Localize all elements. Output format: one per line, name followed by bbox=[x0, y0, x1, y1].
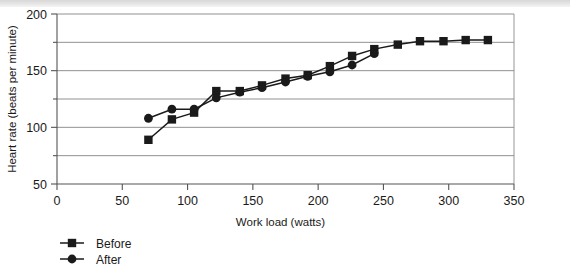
data-point-circle bbox=[281, 78, 290, 87]
data-point-square bbox=[484, 36, 492, 44]
x-tick-label: 300 bbox=[438, 194, 459, 208]
x-axis-tick-labels: 050100150200250300350 bbox=[54, 194, 525, 208]
data-point-square bbox=[144, 136, 152, 144]
x-axis-title: Work load (watts) bbox=[236, 216, 325, 228]
data-point-circle bbox=[235, 88, 244, 97]
y-tick-label: 100 bbox=[26, 121, 47, 135]
legend-label: Before bbox=[96, 237, 132, 251]
x-tick-label: 100 bbox=[177, 194, 198, 208]
data-point-square bbox=[439, 37, 447, 45]
legend-item-after[interactable]: After bbox=[60, 253, 121, 267]
data-point-square bbox=[68, 239, 76, 247]
y-tick-label: 50 bbox=[33, 178, 47, 192]
y-axis-title: Heart rate (beats per minute) bbox=[6, 25, 18, 173]
data-point-square bbox=[416, 37, 424, 45]
data-point-circle bbox=[168, 105, 177, 114]
data-point-circle bbox=[190, 105, 199, 114]
data-point-circle bbox=[68, 255, 77, 264]
data-point-circle bbox=[370, 49, 379, 58]
y-axis-tick-labels: 50100150200 bbox=[26, 8, 47, 192]
data-point-circle bbox=[348, 61, 357, 70]
data-point-circle bbox=[303, 72, 312, 81]
chart-legend: BeforeAfter bbox=[60, 237, 132, 267]
legend-item-before[interactable]: Before bbox=[60, 237, 132, 251]
series-before bbox=[144, 36, 492, 144]
heart-rate-line-chart: 50100150200 050100150200250300350 Heart … bbox=[0, 0, 570, 276]
data-point-circle bbox=[212, 93, 221, 102]
data-point-circle bbox=[325, 67, 334, 76]
data-point-circle bbox=[258, 83, 267, 92]
y-tick-label: 200 bbox=[26, 8, 47, 22]
x-tick-label: 150 bbox=[242, 194, 263, 208]
y-tick-label: 150 bbox=[26, 64, 47, 78]
x-tick-label: 0 bbox=[54, 194, 61, 208]
y-axis-ticks bbox=[51, 14, 57, 184]
data-point-circle bbox=[144, 114, 153, 123]
series-polyline bbox=[148, 40, 487, 140]
x-tick-label: 200 bbox=[308, 194, 329, 208]
x-tick-label: 250 bbox=[373, 194, 394, 208]
data-point-square bbox=[394, 40, 402, 48]
x-tick-label: 350 bbox=[504, 194, 525, 208]
x-axis-ticks bbox=[57, 184, 514, 190]
data-series-group bbox=[144, 36, 492, 144]
data-point-square bbox=[348, 52, 356, 60]
legend-label: After bbox=[96, 253, 121, 267]
x-tick-label: 50 bbox=[115, 194, 129, 208]
chart-figure: 50100150200 050100150200250300350 Heart … bbox=[0, 0, 570, 276]
data-point-square bbox=[168, 115, 176, 123]
data-point-square bbox=[461, 36, 469, 44]
